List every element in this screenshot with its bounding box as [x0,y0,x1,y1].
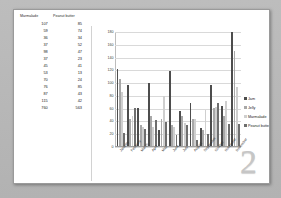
table-cell: 45 [20,62,48,69]
bar-group [199,32,209,146]
bar-group [189,32,199,146]
table-row: 5974 [20,27,90,34]
x-axis-label: April [148,149,159,175]
legend-item-label: Jelly [248,106,255,110]
table-cell: 34 [48,34,90,41]
table-row: 10785 [20,20,90,27]
table-cell: 85 [48,83,90,90]
y-axis-tick-label: 180 [108,30,114,34]
bar-group [116,32,126,146]
legend-item[interactable]: Peanut butter [244,121,270,130]
legend-swatch-icon [244,97,247,100]
table-row: 760563 [20,104,90,111]
table-body: 1078559743634375298473723454153137024768… [20,20,90,112]
y-axis-tick-label: 100 [108,81,114,85]
table-row: 5313 [20,69,90,76]
bar-group [231,32,241,146]
bar-group [137,32,147,146]
legend-item[interactable]: Jelly [244,103,270,112]
bar-group [210,32,220,146]
table-cell: 42 [48,97,90,104]
bar-group [158,32,168,146]
data-table: Marmalade Peanut butter 1078559743634375… [20,14,90,111]
table-row: 3723 [20,55,90,62]
bar-group [168,32,178,146]
bar [134,108,136,146]
table-cell: 37 [20,55,48,62]
column-header-peanut-butter: Peanut butter [53,14,90,18]
table-row: 4541 [20,62,90,69]
table-cell: 115 [20,97,48,104]
table-cell: 47 [48,48,90,55]
x-axis-label: February [127,149,138,175]
bar [186,125,188,146]
table-cell: 98 [20,48,48,55]
y-axis-tick-label: 40 [110,119,114,123]
bar-group [147,32,157,146]
y-axis-tick-label: 80 [110,94,114,98]
table-row: 7685 [20,83,90,90]
table-row: 3634 [20,34,90,41]
x-axis-label: August [190,149,201,175]
table-cell: 85 [48,20,90,27]
table-cell: 43 [48,90,90,97]
x-axis-labels: JanuaryFebruaryMarchAprilMayJuneJulyAugu… [116,149,242,175]
bar-group [220,32,230,146]
legend-item-label: Marmalade [248,115,266,119]
legend-item-label: Peanut butter [248,124,270,128]
table-cell: 52 [48,41,90,48]
legend-item-label: Jam [248,97,255,101]
x-axis-label: January [116,149,127,175]
table-cell: 53 [20,69,48,76]
table-cell: 24 [48,76,90,83]
y-axis-tick-label: 0 [112,145,114,149]
table-row: 8743 [20,90,90,97]
legend-swatch-icon [244,124,247,127]
bar-groups [116,32,241,146]
table-row: 9847 [20,48,90,55]
x-axis-label: September [200,149,211,175]
chart-legend: JamJellyMarmaladePeanut butter [244,94,270,130]
table-row: 7024 [20,76,90,83]
x-axis-label: March [137,149,148,175]
y-axis-tick-label: 60 [110,107,114,111]
bar-group [126,32,136,146]
x-axis-label: November [221,149,232,175]
table-cell: 23 [48,55,90,62]
table-cell: 70 [20,76,48,83]
bar [155,120,157,146]
bar [217,103,219,146]
table-cell: 13 [48,69,90,76]
legend-swatch-icon [244,106,247,109]
y-axis-tick-label: 160 [108,43,114,47]
table-cell: 74 [48,27,90,34]
x-axis-label: May [158,149,169,175]
table-cell: 37 [20,41,48,48]
table-cell: 107 [20,20,48,27]
bar [165,122,167,146]
x-axis-label: July [179,149,190,175]
y-axis-tick-label: 140 [108,56,114,60]
chart-plot-area: 020406080100120140160180 [115,32,241,147]
table-cell: 41 [48,62,90,69]
table-cell: 87 [20,90,48,97]
table-cell: 563 [48,104,90,111]
y-axis-tick-label: 120 [108,68,114,72]
x-axis-label: October [211,149,222,175]
legend-item[interactable]: Jam [244,94,270,103]
table-cell: 59 [20,27,48,34]
table-row: 3752 [20,41,90,48]
legend-item[interactable]: Marmalade [244,112,270,121]
page-number-watermark: 2 [240,145,257,179]
table-cell: 36 [20,34,48,41]
screenshot-root: Marmalade Peanut butter 1078559743634375… [0,0,281,198]
table-row: 11542 [20,97,90,104]
column-header-marmalade: Marmalade [20,14,53,18]
table-cell: 760 [20,104,48,111]
table-cell: 76 [20,83,48,90]
legend-swatch-icon [244,115,247,118]
document-page: Marmalade Peanut butter 1078559743634375… [13,9,270,184]
table-header-row: Marmalade Peanut butter [20,14,90,18]
x-axis-label: June [169,149,180,175]
bar-group [179,32,189,146]
